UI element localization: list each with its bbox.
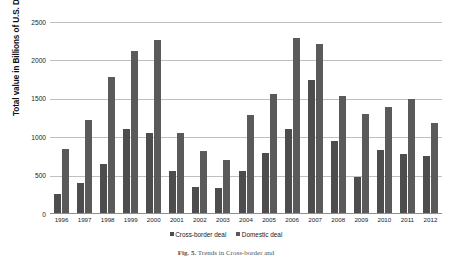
legend-item: Cross-border deal bbox=[170, 230, 227, 238]
caption-text: Trends in Cross-border and bbox=[198, 249, 275, 257]
bar-group bbox=[100, 22, 115, 214]
bar-cross-border-1999 bbox=[123, 129, 130, 214]
bar-domestic-2011 bbox=[408, 99, 415, 214]
bar-domestic-2008 bbox=[339, 96, 346, 214]
bar-domestic-2006 bbox=[293, 38, 300, 214]
bar-group bbox=[192, 22, 207, 214]
y-tick-label: 1500 bbox=[6, 95, 46, 102]
y-tick-label: 500 bbox=[6, 172, 46, 179]
bar-cross-border-2012 bbox=[423, 156, 430, 214]
bar-domestic-2001 bbox=[177, 133, 184, 214]
y-tick-label: 2000 bbox=[6, 57, 46, 64]
bar-cross-border-2006 bbox=[285, 129, 292, 214]
bar-group bbox=[146, 22, 161, 214]
bar-cross-border-2007 bbox=[308, 80, 315, 214]
bar-cross-border-1998 bbox=[100, 164, 107, 214]
bar-cross-border-1996 bbox=[54, 194, 61, 214]
legend-label: Domestic deal bbox=[242, 231, 283, 238]
bar-domestic-1996 bbox=[62, 149, 69, 214]
bar-cross-border-2010 bbox=[377, 150, 384, 214]
y-tick-label: 2500 bbox=[6, 19, 46, 26]
bar-domestic-1999 bbox=[131, 51, 138, 214]
legend-item: Domestic deal bbox=[236, 230, 282, 238]
bar-cross-border-1997 bbox=[77, 183, 84, 214]
bar-domestic-2004 bbox=[247, 115, 254, 214]
bar-cross-border-2002 bbox=[192, 187, 199, 214]
bar-group bbox=[400, 22, 415, 214]
bar-cross-border-2003 bbox=[215, 188, 222, 214]
bar-cross-border-2004 bbox=[239, 171, 246, 214]
bar-group bbox=[169, 22, 184, 214]
bar-cross-border-2011 bbox=[400, 154, 407, 214]
plot-area bbox=[50, 22, 442, 214]
bar-group bbox=[423, 22, 438, 214]
y-tick-label: 1000 bbox=[6, 134, 46, 141]
legend-swatch bbox=[236, 232, 240, 236]
bar-domestic-2000 bbox=[154, 40, 161, 214]
chart-legend: Cross-border dealDomestic deal bbox=[0, 230, 452, 238]
bar-domestic-2007 bbox=[316, 44, 323, 214]
bar-group bbox=[262, 22, 277, 214]
bar-domestic-2003 bbox=[223, 160, 230, 214]
bar-domestic-2009 bbox=[362, 114, 369, 214]
legend-swatch bbox=[170, 232, 174, 236]
bar-domestic-1997 bbox=[85, 120, 92, 214]
bar-domestic-1998 bbox=[108, 77, 115, 214]
x-axis-line bbox=[50, 213, 442, 214]
bar-cross-border-2005 bbox=[262, 153, 269, 214]
bar-group bbox=[285, 22, 300, 214]
bar-cross-border-2000 bbox=[146, 133, 153, 214]
bar-cross-border-2001 bbox=[169, 171, 176, 214]
legend-label: Cross-border deal bbox=[175, 231, 226, 238]
figure-number: Fig. 5. bbox=[178, 249, 196, 257]
bar-group bbox=[215, 22, 230, 214]
bar-group bbox=[54, 22, 69, 214]
bar-group bbox=[123, 22, 138, 214]
bar-domestic-2002 bbox=[200, 151, 207, 214]
bar-group bbox=[354, 22, 369, 214]
bar-domestic-2005 bbox=[270, 94, 277, 214]
bar-group bbox=[77, 22, 92, 214]
bar-group bbox=[331, 22, 346, 214]
bar-domestic-2010 bbox=[385, 107, 392, 214]
bar-cross-border-2008 bbox=[331, 141, 338, 214]
bar-cross-border-2009 bbox=[354, 177, 361, 214]
y-tick-label: 0 bbox=[6, 211, 46, 218]
bar-group bbox=[239, 22, 254, 214]
bar-domestic-2012 bbox=[431, 123, 438, 214]
x-tick-label: 2012 bbox=[417, 216, 443, 224]
bar-group bbox=[377, 22, 392, 214]
bar-group bbox=[308, 22, 323, 214]
figure-chart: Total value in Billions of U.S. Dollars … bbox=[0, 0, 452, 260]
figure-caption: Fig. 5. Trends in Cross-border and bbox=[0, 249, 452, 260]
